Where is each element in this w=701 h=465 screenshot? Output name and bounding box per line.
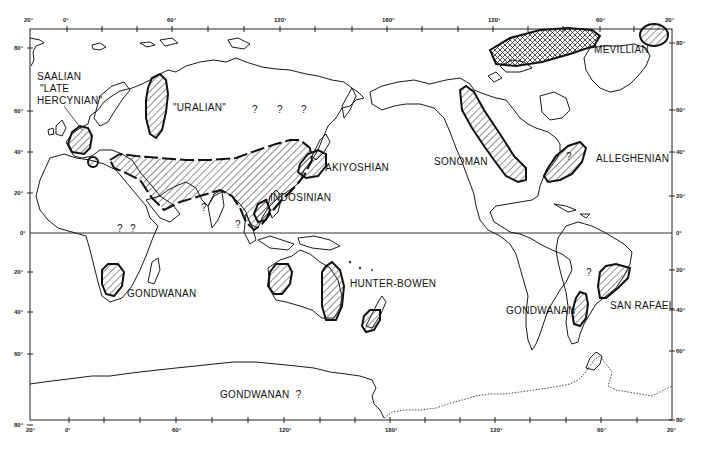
- saalian-leader-line: [64, 106, 82, 130]
- belt-western-australia: [268, 264, 292, 294]
- right-axis-label: 80°: [676, 40, 686, 46]
- right-axis-label: 20°: [676, 267, 686, 273]
- label-indosinian: INDOSINIAN: [270, 192, 331, 203]
- question-mark: ?: [235, 219, 241, 230]
- left-axis-label: 40°: [14, 149, 24, 155]
- belt-saalian: [68, 126, 92, 154]
- antarctica-coast: [30, 362, 384, 418]
- bottom-axis-label: 60°: [597, 427, 607, 433]
- belt-mevillian: [490, 28, 600, 66]
- top-axis-label: 20°: [24, 17, 34, 23]
- top-axis-label: 120°: [488, 17, 501, 23]
- belt-uralian: [146, 74, 168, 138]
- label-sonoman: SONOMAN: [434, 156, 488, 167]
- left-axis-label: 60°: [14, 351, 24, 357]
- right-axis-label: 60°: [676, 348, 686, 354]
- top-axis-label: 0°: [63, 17, 69, 23]
- belt-sonoman: [460, 86, 526, 182]
- top-axis-label: 180°: [382, 17, 395, 23]
- bottom-axis-label: 20°: [667, 427, 677, 433]
- label-saalian: SAALIAN: [37, 71, 81, 82]
- bottom-axis-label: 120°: [279, 427, 292, 433]
- left-axis-label: 0°: [20, 230, 26, 236]
- bottom-axis-labels: 20° 0° 60° 120° 180° 120° 60° 20°: [26, 427, 677, 433]
- belt-saalian-small: [88, 157, 98, 167]
- label-late: "LATE: [40, 83, 69, 94]
- left-axis-label: 80°: [14, 422, 24, 428]
- label-hercynian: HERCYNIAN": [37, 95, 103, 106]
- coastlines: [30, 38, 672, 418]
- label-san-rafael: SAN RAFAEL: [610, 300, 675, 311]
- top-axis-labels: 20° 0° 60° 120° 180° 120° 60° 20°: [24, 17, 675, 23]
- bottom-axis-label: 0°: [65, 427, 71, 433]
- world-map: 20° 0° 60° 120° 180° 120° 60° 20° 20° 0°…: [0, 0, 701, 465]
- bottom-axis-label: 60°: [172, 427, 182, 433]
- belt-gondwanan-africa: [102, 264, 124, 296]
- right-axis-label: 40°: [676, 307, 686, 313]
- question-mark: ?: [201, 202, 207, 213]
- right-axis-label: 80°: [676, 417, 686, 423]
- belt-hunter-bowen: [322, 262, 344, 320]
- belt-tethyan: [110, 140, 312, 230]
- question-mark: ?: [277, 104, 283, 115]
- bottom-axis-label: 180°: [385, 427, 398, 433]
- left-axis-labels: 80° 60° 40° 20° 0° 20° 40° 60° 80°: [14, 45, 26, 428]
- question-mark: ?: [117, 223, 123, 234]
- right-axis-label: 40°: [676, 149, 686, 155]
- label-mevillian: MEVILLIAN: [594, 44, 649, 55]
- question-mark: ?: [586, 267, 592, 278]
- belt-san-rafael: [598, 264, 630, 298]
- label-akiyoshian: AKIYOSHIAN: [325, 162, 389, 173]
- bottom-axis-label: 120°: [490, 427, 503, 433]
- label-uralian: "URALIAN": [173, 102, 226, 113]
- label-gondwanan-antarctica: GONDWANAN ?: [220, 389, 302, 400]
- left-axis-label: 40°: [14, 309, 24, 315]
- label-hunter-bowen: HUNTER-BOWEN: [350, 278, 436, 289]
- left-axis-label: 80°: [14, 45, 24, 51]
- top-axis-label: 60°: [596, 17, 606, 23]
- right-axis-label: 60°: [676, 107, 686, 113]
- right-axis-label: 0°: [676, 230, 682, 236]
- greenland-west-fragment: [30, 38, 44, 66]
- belt-alleghenian: [544, 142, 586, 182]
- belt-new-zealand: [362, 310, 380, 332]
- question-mark: ?: [252, 104, 258, 115]
- bottom-axis-label: 20°: [26, 427, 36, 433]
- right-axis-labels: 80° 60° 40° 20° 0° 20° 40° 60° 80°: [676, 40, 686, 423]
- label-alleghenian: ALLEGHENIAN: [596, 153, 669, 164]
- left-axis-label: 60°: [14, 108, 24, 114]
- top-axis-label: 120°: [274, 17, 287, 23]
- left-axis-label: 20°: [14, 269, 24, 275]
- right-axis-label: 20°: [676, 193, 686, 199]
- label-gondwanan-africa: GONDWANAN: [127, 288, 197, 299]
- question-mark: ?: [130, 223, 136, 234]
- belt-mevillian-greenland: [640, 24, 668, 46]
- top-axis-label: 60°: [167, 17, 177, 23]
- left-axis-label: 20°: [14, 190, 24, 196]
- question-mark: ?: [566, 151, 572, 162]
- label-gondwanan-south-america: GONDWANAN: [506, 305, 576, 316]
- question-mark: ?: [301, 104, 307, 115]
- top-axis-label: 20°: [665, 17, 675, 23]
